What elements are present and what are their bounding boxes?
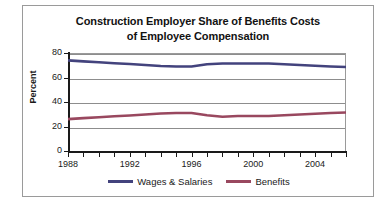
x-axis-tick	[284, 153, 285, 157]
x-axis-tick-label: 1988	[48, 159, 88, 170]
legend-swatch-benefits	[226, 180, 251, 183]
y-axis-tick-label: 60	[22, 73, 62, 82]
x-axis-tick	[207, 153, 208, 157]
x-axis-tick	[99, 153, 100, 157]
x-axis-tick	[346, 153, 347, 157]
x-axis-tick-label: 2004	[295, 159, 335, 170]
x-axis-tick	[253, 153, 254, 157]
x-axis-tick-label: 1992	[110, 159, 150, 170]
x-axis-tick	[145, 153, 146, 157]
x-axis-tick	[161, 153, 162, 157]
legend-item-wages-salaries[interactable]: Wages & Salaries	[108, 176, 212, 187]
plot-wrapper: Percent 020406080 19881992199620002004	[23, 6, 375, 198]
x-axis-tick	[238, 153, 239, 157]
x-axis-tick	[130, 153, 131, 157]
x-axis-tick-label: 1996	[172, 159, 212, 170]
series-lines	[68, 52, 347, 152]
chart-frame: Construction Employer Share of Benefits …	[22, 5, 374, 197]
x-axis-tick	[269, 153, 270, 157]
x-axis-tick	[315, 153, 316, 157]
y-axis-tick	[64, 78, 69, 79]
x-axis-tick	[68, 153, 69, 157]
y-axis-tick	[64, 102, 69, 103]
y-axis-tick	[64, 53, 69, 54]
x-axis-tick-label: 2000	[233, 159, 273, 170]
y-axis-tick	[64, 151, 69, 152]
legend-item-benefits[interactable]: Benefits	[226, 176, 289, 187]
x-axis-tick	[331, 153, 332, 157]
series-line	[68, 113, 346, 120]
legend-swatch-wages-salaries	[108, 180, 133, 183]
x-axis-tick	[222, 153, 223, 157]
x-axis-tick	[83, 153, 84, 157]
y-axis-tick-label: 40	[22, 97, 62, 106]
x-axis-tick	[300, 153, 301, 157]
legend-label-benefits: Benefits	[255, 176, 289, 187]
y-axis-tick-label: 80	[22, 48, 62, 57]
series-line	[68, 60, 346, 67]
y-axis-tick-label: 20	[22, 122, 62, 131]
x-axis-tick	[192, 153, 193, 157]
chart-legend: Wages & Salaries Benefits	[23, 176, 375, 187]
x-axis-tick	[114, 153, 115, 157]
y-axis-tick-label: 0	[22, 146, 62, 155]
legend-label-wages-salaries: Wages & Salaries	[137, 176, 212, 187]
y-axis-tick	[64, 127, 69, 128]
x-axis-tick	[176, 153, 177, 157]
